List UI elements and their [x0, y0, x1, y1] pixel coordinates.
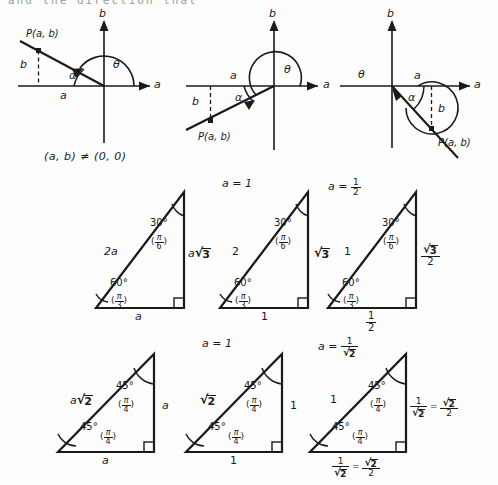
close-paren: ) — [241, 432, 245, 441]
top-angle-degrees: 45° — [244, 381, 262, 391]
right-angle-marker — [298, 298, 308, 308]
vertical-leg-label: a√3 — [188, 247, 211, 260]
vertical-leg-right-denominator: 2 — [440, 408, 457, 418]
triangle-45-45-90-a-equals-one-over-root-two: a = 1√2 1 1√2 = √22 1√2 = √22 45° (π4) 4… — [302, 348, 498, 483]
bottom-angle-radians: (π3) — [111, 292, 127, 310]
radicand: 3 — [202, 248, 211, 260]
quadrant-II-diagram: a b P(a, b) b a θ α — [0, 8, 170, 153]
point-label: P(a, b) — [438, 138, 471, 148]
hypotenuse-label: 2a — [104, 246, 118, 257]
point-label: P(a, b) — [198, 132, 231, 142]
triangle-30-60-90-a-equals-half: a = 12 1 √32 12 30° (π6) 60° (π3) — [320, 186, 460, 331]
bottom-angle-degrees: 45° — [80, 422, 98, 432]
quadrant-III-diagram: a b P(a, b) b a θ α — [168, 8, 338, 158]
caption: a = 1√2 — [318, 336, 358, 358]
top-angle-rad-numerator: π — [155, 234, 164, 242]
bottom-angle-rad-numerator: π — [232, 429, 241, 437]
vertical-leg-numerator: √3 — [421, 243, 440, 256]
bottom-angle-rad-numerator: π — [347, 293, 356, 301]
right-angle-marker — [272, 442, 282, 452]
alpha-label: α — [69, 70, 76, 81]
top-angle-radians: (π6) — [383, 233, 399, 251]
vertical-leg-label: b — [438, 103, 445, 114]
vertical-leg-coefficient: a — [188, 247, 195, 260]
triangle-30-60-90-general: 2a a√3 a 30° (π6) 60° (π3) — [88, 186, 218, 326]
bottom-angle-rad-denominator: 3 — [239, 301, 248, 310]
x-axis-label: a — [323, 79, 330, 90]
caption: a = 12 — [328, 177, 361, 197]
right-angle-marker — [396, 442, 406, 452]
close-paren: ) — [259, 400, 263, 409]
vertical-leg-label: 1 — [290, 400, 297, 411]
right-angle-marker — [144, 442, 154, 452]
vertical-leg-label: √32 — [421, 242, 440, 266]
top-angle-degrees: 45° — [368, 381, 386, 391]
theta-label: θ — [284, 64, 291, 75]
triangle-45-45-90-general: a√2 a a 45° (π4) 45° (π4) — [50, 348, 190, 473]
top-angle-radians: (π4) — [118, 396, 134, 414]
top-angle-degrees: 30° — [274, 218, 292, 228]
bottom-angle-degrees: 60° — [342, 278, 360, 288]
caption-numerator: 1 — [351, 178, 361, 187]
hypotenuse-label: √2 — [200, 394, 216, 407]
base-denominator: 2 — [366, 322, 376, 334]
top-angle-radians: (π4) — [246, 396, 262, 414]
top-angle-rad-numerator: π — [387, 234, 396, 242]
base-label: 12 — [366, 310, 376, 332]
y-axis-label: b — [269, 8, 276, 19]
y-axis-label: b — [387, 8, 394, 19]
base-equals: = — [352, 461, 360, 471]
top-angle-radians: (π6) — [151, 233, 167, 251]
horizontal-leg-label: a — [414, 70, 421, 81]
close-paren: ) — [396, 237, 400, 246]
bottom-angle-rad-numerator: π — [115, 293, 124, 301]
figure-page: and the direction that — [0, 0, 498, 485]
base-label: a — [102, 455, 109, 466]
theta-label: θ — [113, 59, 120, 70]
top-angle-rad-denominator: 6 — [387, 242, 396, 251]
point-marker — [429, 126, 434, 131]
bottom-angle-radians: (π3) — [235, 292, 251, 310]
radicand: 2 — [207, 395, 216, 407]
x-axis-label: a — [474, 79, 481, 90]
bottom-angle-radians: (π4) — [228, 428, 244, 446]
close-paren: ) — [248, 296, 252, 305]
triangle-45-45-90-a-equals-1: a = 1 √2 1 1 45° (π4) 45° (π4) — [178, 348, 318, 473]
hypotenuse-label: 2 — [232, 246, 239, 257]
theta-arc — [80, 56, 134, 86]
bottom-angle-rad-denominator: 4 — [104, 437, 113, 446]
hypotenuse-label: 1 — [330, 394, 337, 405]
top-angle-rad-denominator: 4 — [122, 405, 131, 414]
theta-label: θ — [358, 69, 365, 80]
y-axis-label: b — [99, 8, 106, 19]
caption-prefix: a = — [318, 340, 337, 353]
vertical-leg-denominator: 2 — [421, 256, 440, 268]
top-angle-radians: (π6) — [275, 233, 291, 251]
bottom-angle-rad-numerator: π — [104, 429, 113, 437]
hypotenuse-label: a√2 — [70, 394, 93, 407]
alpha-label: α — [408, 92, 415, 103]
x-axis-label: a — [154, 79, 161, 90]
bottom-angle-rad-numerator: π — [239, 293, 248, 301]
x-axis-arrowhead — [459, 82, 470, 91]
hypotenuse-coefficient: a — [70, 394, 77, 407]
caption-denominator: 2 — [351, 187, 361, 197]
base-right-denominator: 2 — [362, 468, 379, 478]
base-label: a — [135, 311, 142, 322]
bottom-angle-degrees: 45° — [208, 422, 226, 432]
radicand: 2 — [84, 395, 93, 407]
close-paren: ) — [124, 296, 128, 305]
top-angle-radians: (π4) — [370, 396, 386, 414]
bottom-angle-rad-denominator: 4 — [356, 437, 365, 446]
triangle-outline — [328, 192, 416, 308]
vertical-leg-label: b — [20, 59, 27, 70]
hypotenuse-label: 1 — [344, 246, 351, 257]
close-paren: ) — [288, 237, 292, 246]
caption-denominator: √2 — [341, 346, 358, 358]
alpha-label: α — [235, 92, 242, 103]
top-angle-rad-denominator: 6 — [155, 242, 164, 251]
point-label: P(a, b) — [26, 29, 59, 39]
close-paren: ) — [164, 237, 168, 246]
close-paren: ) — [383, 400, 387, 409]
top-angle-rad-numerator: π — [122, 397, 131, 405]
